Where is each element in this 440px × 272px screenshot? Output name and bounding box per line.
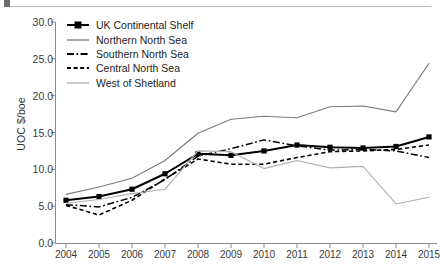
x-tick-label: 2008	[187, 249, 209, 260]
legend-swatch-dashed-icon	[66, 62, 90, 74]
legend-swatch-solid-marker-icon	[66, 19, 90, 31]
x-tick-marks	[66, 244, 429, 249]
x-tick-label: 2006	[121, 249, 143, 260]
x-tick-label: 2010	[253, 249, 275, 260]
y-axis-tick-labels: 30.0 25.0 20.0 15.0 10.0 5.0 0.0	[17, 0, 53, 272]
data-point-marker	[228, 153, 233, 158]
x-tick-label: 2012	[319, 249, 341, 260]
y-tick-label: 15.0	[19, 127, 53, 139]
legend-label: Southern North Sea	[96, 48, 189, 60]
data-point-marker	[426, 134, 431, 139]
legend-item-west-of-shetland[interactable]: West of Shetland	[66, 76, 193, 90]
x-tick-label: 2007	[154, 249, 176, 260]
x-tick-label: 2014	[385, 249, 407, 260]
y-tick-label: 5.0	[19, 200, 53, 212]
header-rule-cap	[4, 0, 10, 7]
x-tick-label: 2009	[220, 249, 242, 260]
legend-label: Northern North Sea	[96, 34, 187, 46]
legend-swatch-dash-dot-icon	[66, 48, 90, 60]
y-tick-label: 25.0	[19, 53, 53, 65]
y-tick-label: 20.0	[19, 90, 53, 102]
data-point-marker	[162, 171, 167, 176]
legend-swatch-solid-gray-icon	[66, 34, 90, 46]
x-tick-label: 2015	[418, 249, 440, 260]
legend-swatch-solid-lightgray-icon	[66, 77, 90, 89]
data-point-marker	[327, 145, 332, 150]
series-southern-north-sea	[66, 140, 429, 207]
data-point-marker	[63, 198, 68, 203]
data-point-marker	[96, 194, 101, 199]
series-west-of-shetland	[66, 151, 429, 204]
header-rule	[6, 6, 431, 7]
legend-item-uk-continental-shelf[interactable]: UK Continental Shelf	[66, 18, 193, 32]
chart-legend: UK Continental Shelf Northern North Sea …	[66, 18, 193, 90]
x-tick-label: 2004	[55, 249, 77, 260]
y-tick-label: 10.0	[19, 163, 53, 175]
legend-item-northern-north-sea[interactable]: Northern North Sea	[66, 32, 193, 46]
legend-item-central-north-sea[interactable]: Central North Sea	[66, 61, 193, 75]
legend-item-southern-north-sea[interactable]: Southern North Sea	[66, 47, 193, 61]
data-point-marker	[129, 187, 134, 192]
data-point-marker	[261, 148, 266, 153]
legend-label: West of Shetland	[96, 77, 176, 89]
y-tick-label: 0.0	[19, 237, 53, 249]
x-tick-label: 2005	[88, 249, 110, 260]
y-tick-label: 30.0	[19, 16, 53, 28]
legend-label: Central North Sea	[96, 62, 180, 74]
legend-label: UK Continental Shelf	[96, 19, 193, 31]
data-point-marker	[393, 144, 398, 149]
x-tick-label: 2011	[286, 249, 308, 260]
x-tick-label: 2013	[352, 249, 374, 260]
